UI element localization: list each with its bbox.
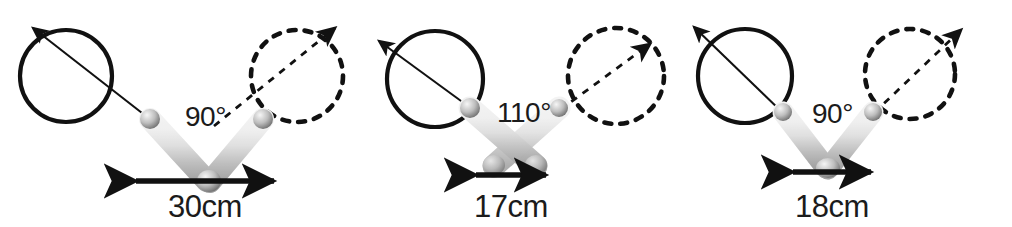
joint-top-right bbox=[253, 109, 273, 129]
joint-top-left bbox=[774, 103, 792, 121]
joint-bottom-right-tip bbox=[525, 155, 547, 175]
linkage-diagram-figure: 90° 30cm 110° 17cm bbox=[0, 0, 1012, 227]
angle-label: 90° bbox=[812, 98, 853, 129]
joint-top-left bbox=[140, 109, 160, 129]
solid-wheel-circle bbox=[20, 30, 112, 122]
distance-label: 18cm bbox=[795, 189, 869, 224]
distance-label: 17cm bbox=[474, 189, 548, 224]
panel-right: 90° 18cm bbox=[694, 27, 961, 224]
dashed-direction-arrow bbox=[214, 28, 335, 126]
dashed-direction-arrow bbox=[560, 44, 650, 110]
joint-top-left bbox=[460, 98, 480, 118]
dashed-target-circle bbox=[568, 28, 664, 124]
angle-label: 110° bbox=[497, 97, 551, 128]
joint-bottom-left-tip bbox=[483, 155, 505, 175]
angle-label: 90° bbox=[185, 101, 226, 132]
dashed-direction-arrow bbox=[874, 30, 961, 113]
distance-label: 30cm bbox=[168, 189, 242, 224]
panel-middle: 110° 17cm bbox=[379, 28, 664, 224]
joint-top-right bbox=[550, 99, 568, 117]
joint-bottom-pivot bbox=[816, 158, 840, 178]
panel-left: 90° 30cm bbox=[20, 28, 343, 224]
diagram-canvas: 90° 30cm 110° 17cm bbox=[0, 0, 1012, 227]
joint-top-right bbox=[864, 103, 882, 121]
solid-direction-arrow bbox=[33, 28, 151, 120]
